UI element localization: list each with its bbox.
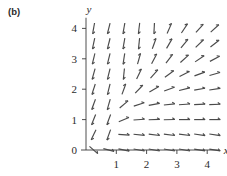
- x-tick-label: 4: [204, 158, 210, 170]
- field-arrow: [119, 118, 129, 122]
- field-arrow-head: [217, 71, 220, 72]
- y-tick-label: 1: [72, 114, 78, 126]
- x-tick-label: 2: [144, 158, 150, 170]
- field-arrow-head: [187, 87, 190, 88]
- field-arrow: [196, 40, 204, 48]
- y-axis-name: y: [86, 3, 92, 15]
- field-arrow-head: [172, 86, 175, 87]
- field-arrow: [194, 88, 205, 90]
- direction-field-plot: 123401234yx: [0, 0, 227, 176]
- field-arrow: [164, 104, 175, 105]
- field-arrow: [209, 88, 220, 90]
- field-arrow-head: [141, 102, 144, 103]
- field-arrow: [167, 39, 173, 49]
- panel-label: (b): [8, 6, 20, 17]
- direction-field-figure: (b) 123401234yx: [0, 0, 227, 176]
- field-arrow: [149, 86, 159, 92]
- field-arrow: [209, 72, 220, 75]
- vector-arrows: [89, 23, 220, 154]
- field-arrow: [134, 103, 144, 106]
- field-arrow: [150, 70, 157, 78]
- field-arrow: [149, 103, 160, 105]
- field-arrow: [135, 85, 143, 93]
- field-arrow-head: [202, 87, 205, 88]
- field-arrow-head: [155, 70, 158, 71]
- field-arrow-head: [202, 71, 205, 72]
- field-arrow-head: [97, 151, 98, 154]
- y-tick-label: 2: [72, 83, 78, 95]
- field-arrow-head: [186, 71, 189, 72]
- x-tick-label: 1: [114, 158, 120, 170]
- field-arrow: [120, 101, 128, 108]
- field-arrow-head: [200, 24, 203, 25]
- field-arrow-head: [170, 54, 173, 55]
- field-arrow: [179, 104, 190, 105]
- field-arrow: [196, 24, 203, 32]
- y-tick-label: 4: [72, 22, 78, 34]
- field-arrow: [164, 87, 174, 91]
- field-arrow: [195, 56, 204, 62]
- field-arrow-head: [126, 117, 129, 118]
- field-arrow: [166, 54, 173, 63]
- field-arrow: [194, 104, 205, 105]
- field-arrow: [180, 55, 188, 62]
- y-tick-label: 3: [72, 53, 78, 65]
- field-arrow-head: [157, 102, 160, 103]
- x-tick-label: 3: [174, 158, 180, 170]
- field-arrow: [210, 56, 220, 61]
- field-arrow: [210, 40, 219, 47]
- axes: [81, 18, 218, 150]
- field-arrow: [211, 25, 219, 32]
- field-arrow-head: [140, 85, 143, 86]
- field-arrow: [180, 72, 190, 77]
- field-arrow: [181, 39, 188, 47]
- y-tick-label: 0: [72, 144, 78, 156]
- x-axis-name: x: [223, 144, 227, 156]
- field-arrow: [181, 24, 187, 33]
- field-arrow: [154, 23, 155, 34]
- field-arrow: [194, 72, 204, 76]
- field-arrow: [165, 71, 174, 77]
- field-arrow-head: [185, 39, 188, 40]
- field-arrow: [134, 119, 145, 120]
- field-arrow: [179, 88, 190, 91]
